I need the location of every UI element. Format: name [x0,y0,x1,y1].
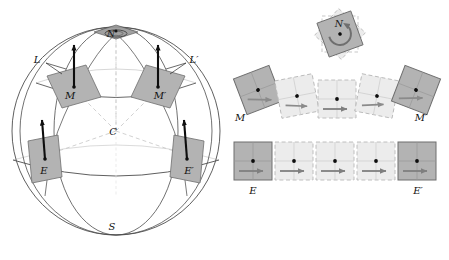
transport-square-m-0 [233,65,282,114]
label-meridian-L: L [33,54,41,65]
latitude-transport-row: M M′ [233,65,440,123]
label-row-E: E [248,185,257,196]
pole-holonomy-marker: N [315,9,366,60]
label-sphere-M: M [64,90,76,101]
center-dot [333,159,337,163]
label-sphere-north: N [106,28,116,39]
transport-square-e-0 [234,142,272,180]
sphere-diagram: N S C L L′ M M′ E E′ [12,25,220,235]
transport-square-e-2 [316,142,354,180]
parallel-transport-figure: N S C L L′ M M′ E E′ N [0,0,449,260]
label-sphere-Mprime: M′ [153,90,167,101]
label-row-Eprime: E′ [412,185,423,196]
transport-square-m-2 [318,80,356,118]
label-row-Mprime: M′ [414,112,428,123]
equator-transport-row: E E′ [234,142,436,196]
north-pole-marker [94,25,138,39]
transport-square-m-1 [275,74,320,119]
transport-square-m-3 [355,74,400,119]
transport-sequences: N [233,9,440,196]
center-dot [374,159,378,163]
label-pole-N: N [334,18,344,29]
label-sphere-center: C [109,126,117,137]
label-sphere-south: S [109,221,116,232]
center-dot [251,159,255,163]
center-dot [292,159,296,163]
center-dot [415,159,419,163]
center-dot [335,97,339,101]
transport-square-e-4 [398,142,436,180]
transport-square-e-3 [357,142,395,180]
label-meridian-Lprime: L′ [189,54,200,65]
transport-square-m-4 [391,65,440,114]
label-row-M: M [234,112,246,123]
transport-square-e-1 [275,142,313,180]
figure-root: N S C L L′ M M′ E E′ N [0,0,449,260]
label-sphere-Eprime: E′ [183,165,194,176]
label-sphere-E: E [39,165,48,176]
